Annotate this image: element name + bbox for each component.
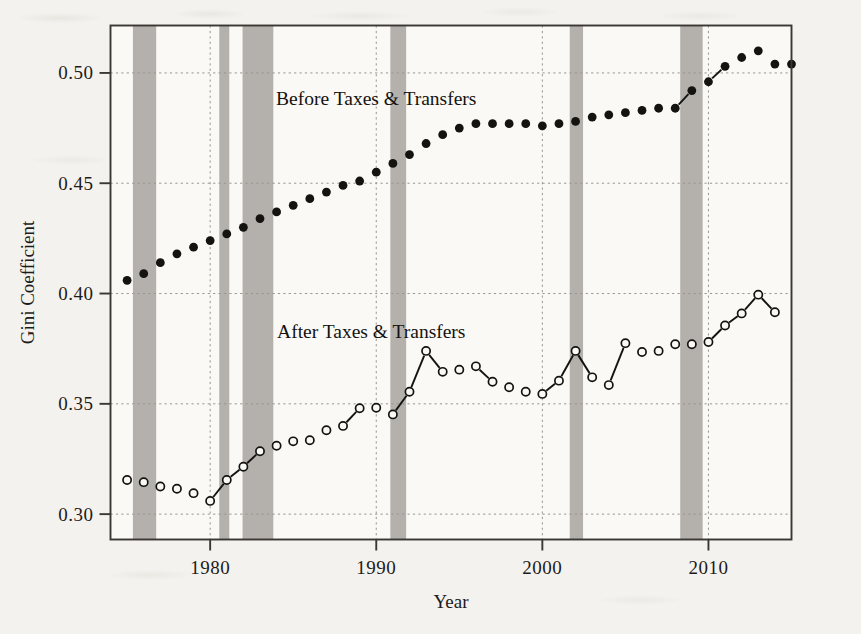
data-point [289, 437, 297, 445]
y-tick-label-3: 0.45 [58, 173, 93, 194]
chart-canvas: 0.300.350.400.450.501980199020002010Year… [0, 0, 861, 634]
data-point [588, 113, 597, 122]
data-point [272, 208, 281, 217]
data-point [488, 119, 497, 128]
data-point [521, 119, 530, 128]
data-point [272, 442, 280, 450]
data-point [356, 404, 364, 412]
recession-band-5 [680, 26, 702, 540]
data-point [721, 62, 730, 71]
data-point [123, 476, 131, 484]
x-tick-label-0: 1980 [190, 557, 230, 578]
data-point [372, 404, 380, 412]
data-point [422, 347, 430, 355]
data-point [372, 168, 381, 177]
data-point [339, 422, 347, 430]
data-point [388, 159, 397, 168]
x-tick-label-3: 2010 [688, 557, 728, 578]
x-axis-title: Year [433, 591, 469, 612]
data-point [604, 110, 613, 119]
data-point [688, 340, 696, 348]
data-point [588, 373, 596, 381]
data-point [289, 201, 298, 210]
data-point [605, 381, 613, 389]
data-point [472, 362, 480, 370]
data-point [621, 339, 629, 347]
y-tick-label-4: 0.50 [58, 62, 93, 83]
data-point [422, 139, 431, 148]
data-point [322, 426, 330, 434]
data-point [305, 194, 314, 203]
y-tick-label-2: 0.40 [58, 283, 93, 304]
data-point [339, 181, 348, 190]
data-point [538, 390, 546, 398]
x-axis: 1980199020002010 [190, 540, 728, 578]
data-point [738, 309, 746, 317]
data-point [139, 269, 148, 278]
y-tick-label-0: 0.30 [58, 504, 93, 525]
data-point [505, 119, 514, 128]
data-point [721, 321, 729, 329]
data-point [555, 119, 564, 128]
data-point [754, 46, 763, 55]
data-point [621, 108, 630, 117]
data-point [156, 482, 164, 490]
data-point [505, 383, 513, 391]
gini-coefficient-chart: 0.300.350.400.450.501980199020002010Year… [0, 0, 861, 634]
data-point [704, 77, 713, 86]
data-point [322, 188, 331, 197]
data-point [737, 53, 746, 62]
data-point [754, 291, 762, 299]
data-point [472, 119, 481, 128]
data-point [538, 121, 547, 130]
data-point [671, 340, 679, 348]
x-tick-label-1: 1990 [356, 557, 396, 578]
data-point [173, 485, 181, 493]
data-point [189, 489, 197, 497]
data-point [671, 104, 680, 113]
recession-band-0 [133, 26, 156, 540]
series-annotation-1: After Taxes & Transfers [277, 321, 465, 342]
data-point [488, 378, 496, 386]
data-point [655, 347, 663, 355]
data-point [306, 436, 314, 444]
recession-band-1 [219, 26, 229, 540]
y-axis: 0.300.350.400.450.50 [58, 62, 110, 524]
data-point [704, 338, 712, 346]
data-point [173, 249, 182, 258]
data-point [389, 410, 397, 418]
x-tick-label-2: 2000 [522, 557, 562, 578]
recession-band-4 [570, 26, 583, 540]
data-point [522, 388, 530, 396]
data-point [189, 243, 198, 252]
data-point [439, 368, 447, 376]
data-point [687, 86, 696, 95]
data-point [405, 388, 413, 396]
data-point [638, 106, 647, 115]
data-point [206, 497, 214, 505]
data-point [654, 104, 663, 113]
data-point [239, 463, 247, 471]
data-point [355, 177, 364, 186]
data-point [571, 117, 580, 126]
data-point [555, 377, 563, 385]
y-axis-title: Gini Coefficient [17, 220, 38, 344]
data-point [206, 236, 215, 245]
data-point [256, 447, 264, 455]
series-annotation-0: Before Taxes & Transfers [276, 88, 476, 109]
data-point [771, 308, 779, 316]
data-point [405, 150, 414, 159]
data-point [256, 214, 265, 223]
data-point [239, 223, 248, 232]
data-point [140, 478, 148, 486]
data-point [455, 124, 464, 133]
data-point [571, 347, 579, 355]
data-point [222, 230, 231, 239]
data-point [123, 276, 132, 285]
y-tick-label-1: 0.35 [58, 393, 93, 414]
data-point [455, 366, 463, 374]
data-point [638, 348, 646, 356]
data-point [223, 476, 231, 484]
data-point [770, 60, 779, 69]
data-point [438, 130, 447, 139]
